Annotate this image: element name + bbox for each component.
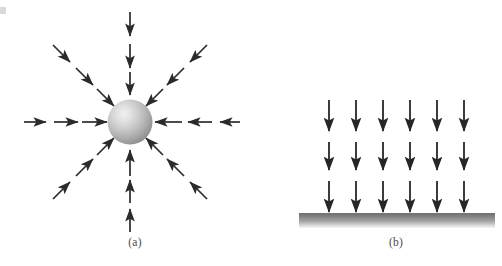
panel-a-caption: (a) bbox=[115, 236, 155, 248]
ray-upper-right bbox=[146, 45, 207, 106]
field-arrow bbox=[190, 182, 207, 199]
panel-b-caption: (b) bbox=[376, 236, 416, 248]
figure-root: (a) (b) bbox=[0, 0, 502, 266]
panel-a bbox=[24, 12, 240, 232]
field-arrow bbox=[146, 138, 163, 155]
ray-upper-left bbox=[53, 45, 114, 106]
field-arrow bbox=[167, 159, 184, 176]
field-arrow bbox=[190, 45, 207, 62]
ground-surface bbox=[299, 213, 495, 228]
field-arrow bbox=[167, 68, 184, 85]
ray-lower-left bbox=[53, 138, 114, 199]
panel-b bbox=[299, 100, 495, 228]
field-arrow bbox=[76, 159, 93, 176]
field-arrow bbox=[76, 68, 93, 85]
field-arrow bbox=[146, 89, 163, 106]
scan-artifact bbox=[0, 7, 6, 14]
field-arrow bbox=[53, 182, 70, 199]
physics-field-figure bbox=[0, 0, 502, 266]
field-arrow bbox=[53, 45, 70, 62]
field-arrow bbox=[97, 138, 114, 155]
ray-lower-right bbox=[146, 138, 207, 199]
field-arrow bbox=[97, 89, 114, 106]
sphere bbox=[108, 100, 153, 145]
